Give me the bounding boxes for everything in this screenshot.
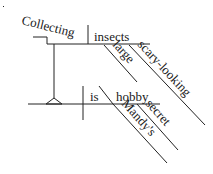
diagram-canvas: Collecting insects large scary-looking i… bbox=[0, 0, 213, 174]
pedestal bbox=[46, 98, 62, 104]
complement-divider bbox=[99, 86, 113, 104]
word-is: is bbox=[90, 89, 99, 104]
word-collecting: Collecting bbox=[20, 12, 77, 40]
sentence-diagram: Collecting insects large scary-looking i… bbox=[0, 0, 213, 174]
gerund-baseline bbox=[33, 37, 150, 44]
stray-mark bbox=[3, 6, 4, 7]
